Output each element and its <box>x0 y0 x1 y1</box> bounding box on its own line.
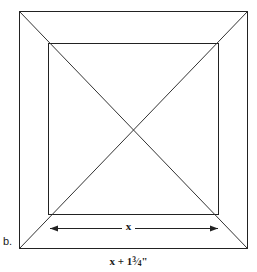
inner-square <box>49 44 219 215</box>
outer-dimension-prefix: x + 1 <box>109 255 132 267</box>
figure-container: b. x x + 13⁄4" <box>0 0 257 272</box>
outer-dimension-label: x + 13⁄4" <box>0 256 257 267</box>
inner-dimension-label: x <box>0 221 257 232</box>
inner-dimension-label-text: x <box>122 220 136 232</box>
part-label: b. <box>3 236 12 247</box>
outer-dimension-suffix: " <box>141 255 147 267</box>
